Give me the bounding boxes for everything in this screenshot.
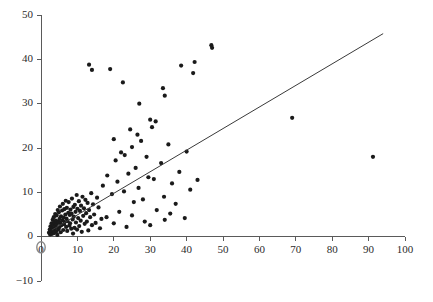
x-tick-label: 20 [108, 243, 120, 255]
data-point [195, 178, 199, 182]
data-point [135, 133, 139, 137]
y-tick-label: 40 [22, 52, 34, 64]
data-point [188, 188, 192, 192]
data-point [77, 199, 81, 203]
data-point [191, 71, 195, 75]
data-point [115, 180, 119, 184]
data-point [88, 215, 92, 219]
data-point [75, 227, 79, 231]
data-point [90, 223, 94, 227]
data-point [123, 153, 127, 157]
data-point [65, 206, 69, 210]
x-tick-label: 100 [397, 243, 414, 255]
data-point [101, 184, 105, 188]
x-tick-label: 70 [290, 243, 302, 255]
data-point [70, 196, 74, 200]
data-point [137, 102, 141, 106]
y-tick-label: −10 [16, 274, 34, 286]
data-point [124, 225, 128, 229]
data-point [128, 127, 132, 131]
data-point [73, 203, 77, 207]
x-axis-ticks: 0102030405060708090100 [38, 237, 414, 255]
data-points-layer [47, 43, 375, 237]
data-point [174, 202, 178, 206]
data-point [112, 221, 116, 225]
data-point [134, 166, 138, 170]
data-point [84, 211, 88, 215]
data-point [85, 219, 89, 223]
data-point [112, 137, 116, 141]
regression-fit-line [52, 34, 383, 230]
data-point [95, 196, 99, 200]
data-point [132, 200, 136, 204]
x-tick-label: 90 [363, 243, 375, 255]
y-tick-label: 20 [22, 141, 34, 153]
data-point [67, 200, 71, 204]
data-point [80, 230, 84, 234]
chart-canvas: −1001020304050 0102030405060708090100 [0, 0, 433, 302]
data-point [130, 145, 134, 149]
data-point [144, 155, 148, 159]
data-point [117, 210, 121, 214]
data-point [155, 208, 159, 212]
data-point [141, 197, 145, 201]
data-point [74, 220, 78, 224]
data-point [105, 173, 109, 177]
data-point [210, 46, 214, 50]
data-point [55, 233, 59, 237]
data-point [148, 118, 152, 122]
scatter-plot-figure: −1001020304050 0102030405060708090100 [0, 0, 433, 302]
x-tick-label: 50 [218, 243, 230, 255]
data-point [90, 68, 94, 72]
y-tick-label: 30 [22, 96, 34, 108]
x-tick-label: 10 [72, 243, 84, 255]
data-point [75, 193, 79, 197]
x-tick-label: 30 [145, 243, 157, 255]
y-tick-label: 10 [22, 185, 34, 197]
data-point [126, 172, 130, 176]
data-point [163, 218, 167, 222]
data-point [98, 226, 102, 230]
data-point [80, 195, 84, 199]
data-point [161, 86, 165, 90]
data-point [108, 67, 112, 71]
data-point [85, 201, 89, 205]
y-tick-label: 0 [28, 229, 34, 241]
data-point [96, 205, 100, 209]
data-point [61, 202, 65, 206]
data-point [163, 94, 167, 98]
data-point [162, 195, 166, 199]
data-point [166, 142, 170, 146]
data-point [177, 170, 181, 174]
data-point [183, 216, 187, 220]
data-point [152, 177, 156, 181]
y-tick-label: 50 [22, 8, 34, 20]
data-point [94, 221, 98, 225]
data-point [119, 150, 123, 154]
data-point [170, 181, 174, 185]
x-tick-label: 40 [181, 243, 193, 255]
data-point [92, 212, 96, 216]
data-point [77, 224, 81, 228]
data-point [193, 60, 197, 64]
data-point [61, 228, 65, 232]
data-point [136, 186, 140, 190]
data-point [114, 158, 118, 162]
data-point [143, 219, 147, 223]
data-point [168, 212, 172, 216]
data-point [179, 63, 183, 67]
data-point [150, 125, 154, 129]
data-point [104, 215, 108, 219]
data-point [121, 80, 125, 84]
data-point [87, 63, 91, 67]
data-point [139, 139, 143, 143]
data-point [154, 119, 158, 123]
data-point [79, 219, 83, 223]
x-tick-label: 60 [254, 243, 266, 255]
data-point [122, 189, 126, 193]
data-point [89, 191, 93, 195]
axes-group [41, 15, 405, 281]
data-point [71, 231, 75, 235]
data-point [290, 116, 294, 120]
data-point [65, 229, 69, 233]
